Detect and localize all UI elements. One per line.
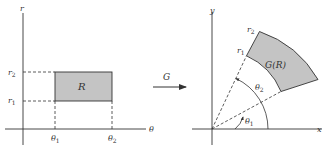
x-axis-label: x <box>317 125 322 134</box>
r2-tick-label: r2 <box>8 68 16 78</box>
left-panel: R r θ r2 r1 θ1 θ2 <box>5 4 154 145</box>
theta-axis-label: θ <box>149 125 154 134</box>
r-axis-label: r <box>20 4 25 13</box>
theta2-tick-label: θ2 <box>108 134 117 144</box>
mapping-label: G <box>163 72 170 82</box>
theta1-tick-label: θ1 <box>51 134 60 144</box>
mapping-g: G <box>153 72 186 87</box>
r1-label: r1 <box>237 46 245 56</box>
theta1-arc <box>235 117 243 129</box>
theta2-label: θ2 <box>255 83 264 93</box>
theta1-label: θ1 <box>245 117 254 127</box>
r1-tick-label: r1 <box>8 96 16 106</box>
region-g-of-r-label: G(R) <box>265 60 286 70</box>
polar-mapping-diagram: R r θ r2 r1 θ1 θ2 G G(R) <box>0 0 327 149</box>
ray-theta2 <box>212 56 247 129</box>
region-r-label: R <box>77 81 86 92</box>
r2-label: r2 <box>247 25 255 35</box>
y-axis-label: y <box>209 6 215 15</box>
right-panel: G(R) y x r2 r1 θ2 θ1 <box>192 6 322 145</box>
